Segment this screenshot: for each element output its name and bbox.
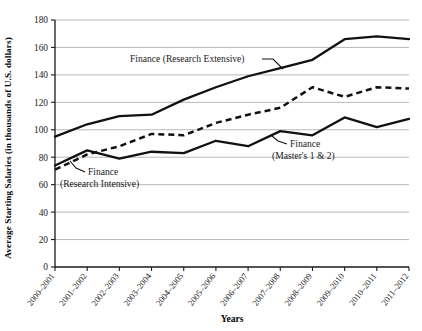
anno-research-extensive-label: Finance (Research Extensive) [130,53,245,65]
anno-masters-line1: Finance [290,138,320,149]
anno-research-intensive-line2: (Research Intensive) [60,178,139,190]
y-tick-label: 20 [39,235,49,245]
y-tick-label: 80 [39,153,49,163]
y-axis-title: Average Starting Salaries (in thousands … [3,37,13,259]
line-chart: 020406080100120140160180 2000–20012001–2… [0,0,422,331]
y-tick-label: 180 [34,15,48,25]
x-axis-title: Years [221,314,244,324]
chart-canvas: 020406080100120140160180 2000–20012001–2… [0,0,422,331]
y-tick-label: 140 [34,70,48,80]
anno-research-intensive-line1: Finance [88,166,118,177]
y-tick-label: 100 [34,125,48,135]
y-tick-label: 40 [39,208,49,218]
anno-masters-line2: (Master's 1 & 2) [272,150,335,162]
y-tick-label: 0 [43,262,48,272]
y-tick-label: 120 [34,98,48,108]
y-tick-label: 60 [39,180,49,190]
y-tick-label: 160 [34,43,48,53]
